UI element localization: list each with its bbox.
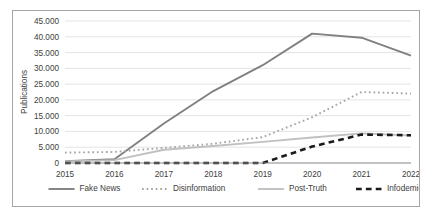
x-tick-label: 2017 — [155, 170, 174, 179]
chart-container: 05.00010.00015.00020.00025.00030.00035.0… — [12, 10, 420, 207]
x-tick-label: 2020 — [303, 170, 322, 179]
y-axis-title: Publications — [20, 70, 29, 114]
legend-label-post-truth: Post-Truth — [289, 184, 327, 193]
gridlines-group — [65, 21, 411, 147]
x-tick-label: 2022 — [402, 170, 419, 179]
data-series-group — [65, 34, 411, 163]
y-tick-label: 0 — [54, 159, 59, 168]
y-tick-label: 45.000 — [34, 17, 59, 26]
chart-legend: Fake NewsDisinformationPost-TruthInfodem… — [49, 184, 420, 193]
y-tick-label: 20.000 — [34, 96, 59, 105]
x-tick-label: 2016 — [105, 170, 124, 179]
y-axis-tick-labels: 05.00010.00015.00020.00025.00030.00035.0… — [34, 17, 59, 168]
x-tick-label: 2018 — [204, 170, 223, 179]
y-tick-label: 25.000 — [34, 80, 59, 89]
y-tick-label: 30.000 — [34, 64, 59, 73]
x-tick-label: 2019 — [254, 170, 273, 179]
legend-label-disinformation: Disinformation — [173, 184, 226, 193]
legend-label-fake-news: Fake News — [80, 184, 121, 193]
y-tick-label: 10.000 — [34, 127, 59, 136]
x-tick-label: 2021 — [352, 170, 371, 179]
x-tick-label: 2015 — [56, 170, 75, 179]
y-tick-label: 40.000 — [34, 33, 59, 42]
y-tick-label: 5.000 — [39, 143, 60, 152]
y-tick-label: 35.000 — [34, 49, 59, 58]
y-tick-label: 15.000 — [34, 112, 59, 121]
x-axis-tick-labels: 20152016201720182019202020212022 — [56, 170, 419, 179]
legend-label-infodemic: Infodemic — [387, 184, 419, 193]
line-chart: 05.00010.00015.00020.00025.00030.00035.0… — [13, 11, 419, 206]
